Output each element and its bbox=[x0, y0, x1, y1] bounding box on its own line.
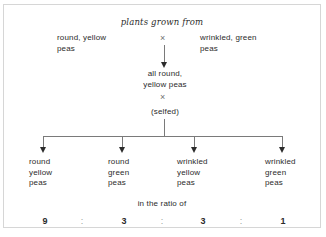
f1-generation-label: all round, yellow peas bbox=[115, 69, 215, 90]
arrow-to-f1-head-icon bbox=[161, 62, 167, 68]
genetics-cross-diagram: plants grown from round, yellow peas × w… bbox=[3, 4, 321, 228]
ratio-value-2: 3 bbox=[114, 216, 134, 226]
ratio-separator-1: : bbox=[76, 216, 88, 226]
ratio-separator-2: : bbox=[156, 216, 168, 226]
tree-stem-line bbox=[164, 119, 165, 137]
offspring-label-4: wrinkled green peas bbox=[265, 157, 326, 189]
branch-arrow-head-4-icon bbox=[279, 147, 285, 153]
selfed-label: (selfed) bbox=[115, 107, 215, 118]
diagram-title: plants grown from bbox=[4, 17, 320, 28]
cross-symbol-f1-self: × bbox=[160, 93, 165, 102]
ratio-value-3: 3 bbox=[193, 216, 213, 226]
ratio-value-4: 1 bbox=[273, 216, 293, 226]
parent-right-label: wrinkled, green peas bbox=[200, 33, 300, 54]
branch-arrow-head-1-icon bbox=[40, 147, 46, 153]
ratio-separator-3: : bbox=[235, 216, 247, 226]
offspring-label-1: round yellow peas bbox=[29, 157, 101, 189]
parent-left-label: round, yellow peas bbox=[57, 33, 147, 54]
branch-arrow-head-2-icon bbox=[119, 147, 125, 153]
ratio-value-1: 9 bbox=[35, 216, 55, 226]
ratio-caption: in the ratio of bbox=[4, 199, 320, 210]
branch-arrow-head-3-icon bbox=[191, 147, 197, 153]
offspring-label-2: round green peas bbox=[108, 157, 180, 189]
offspring-label-3: wrinkled yellow peas bbox=[177, 157, 249, 189]
tree-horizontal-bar bbox=[43, 136, 283, 137]
cross-symbol-parental: × bbox=[160, 34, 165, 43]
